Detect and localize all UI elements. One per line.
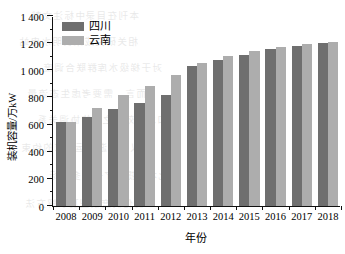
y-axis-tick-label: 1 400: [20, 11, 44, 22]
bar: [292, 46, 302, 206]
bar: [92, 108, 102, 206]
bar: [239, 55, 249, 206]
bar: [134, 103, 144, 206]
y-axis-tick-label: 800: [28, 92, 44, 103]
legend-label: 四川: [89, 21, 111, 32]
y-axis-tick-label: 600: [28, 120, 44, 131]
x-axis-tick-label: 2012: [160, 211, 181, 222]
x-axis-tick: [184, 206, 185, 210]
x-axis-tick: [289, 206, 290, 210]
y-axis-tick-label: 200: [28, 174, 44, 185]
bar: [265, 49, 275, 206]
x-axis-tick-label: 2010: [108, 211, 129, 222]
x-axis-tick-label: 2017: [291, 211, 312, 222]
legend-label: 云南: [89, 35, 111, 46]
bar: [56, 122, 66, 206]
bar: [249, 51, 259, 206]
x-axis-tick-label: 2011: [134, 211, 155, 222]
bar: [302, 44, 312, 206]
y-axis-tick: [47, 178, 53, 179]
x-axis-tick: [315, 206, 316, 210]
x-axis-tick: [158, 206, 159, 210]
x-axis-tick-label: 2016: [265, 211, 286, 222]
bar-chart: 装机容量/万kW 02004006008001 0001 2001 400 20…: [0, 0, 345, 254]
y-axis-tick: [47, 69, 53, 70]
x-axis-tick-label: 2013: [187, 211, 208, 222]
y-axis-minor-tick: [50, 56, 54, 57]
bar: [161, 95, 171, 206]
legend-swatch-icon: [62, 22, 84, 31]
bar: [328, 42, 338, 206]
bar: [318, 43, 328, 206]
x-axis-tick-label: 2008: [56, 211, 77, 222]
y-axis-tick-label: 1 000: [20, 65, 44, 76]
bar: [108, 109, 118, 206]
x-axis-tick: [210, 206, 211, 210]
x-axis-tick: [53, 206, 54, 210]
y-axis-minor-tick: [50, 110, 54, 111]
x-axis-tick: [262, 206, 263, 210]
x-axis-title: 年份: [185, 229, 207, 245]
bar: [171, 75, 181, 206]
legend-item: 四川: [62, 20, 111, 32]
y-axis-tick-label: 400: [28, 147, 44, 158]
x-axis-tick-label: 2015: [239, 211, 260, 222]
y-axis-tick: [47, 124, 53, 125]
y-axis-minor-tick: [50, 191, 54, 192]
legend: 四川云南: [62, 20, 111, 46]
x-axis-tick: [79, 206, 80, 210]
bar: [66, 122, 76, 206]
legend-swatch-icon: [62, 36, 84, 45]
x-axis-tick: [105, 206, 106, 210]
x-axis-tick-label: 2018: [317, 211, 338, 222]
y-axis-tick: [47, 96, 53, 97]
y-axis-title: 装机容量/万kW: [4, 93, 19, 161]
bar: [213, 60, 223, 206]
y-axis-tick-label: 0: [39, 201, 44, 212]
x-axis-tick: [236, 206, 237, 210]
y-axis-minor-tick: [50, 29, 54, 30]
x-axis-tick-label: 2014: [213, 211, 234, 222]
bar: [223, 56, 233, 206]
bar: [118, 95, 128, 206]
x-axis-tick: [341, 206, 342, 210]
x-axis-tick-label: 2009: [82, 211, 103, 222]
y-axis-minor-tick: [50, 164, 54, 165]
y-axis-tick: [47, 15, 53, 16]
bar: [197, 63, 207, 206]
bar: [276, 47, 286, 206]
bar: [145, 86, 155, 207]
y-axis-tick-label: 1 200: [20, 38, 44, 49]
legend-item: 云南: [62, 34, 111, 46]
x-axis-tick: [132, 206, 133, 210]
bar: [82, 117, 92, 206]
y-axis-tick: [47, 42, 53, 43]
y-axis-tick: [47, 151, 53, 152]
y-axis-minor-tick: [50, 137, 54, 138]
bar: [187, 66, 197, 206]
y-axis-minor-tick: [50, 83, 54, 84]
